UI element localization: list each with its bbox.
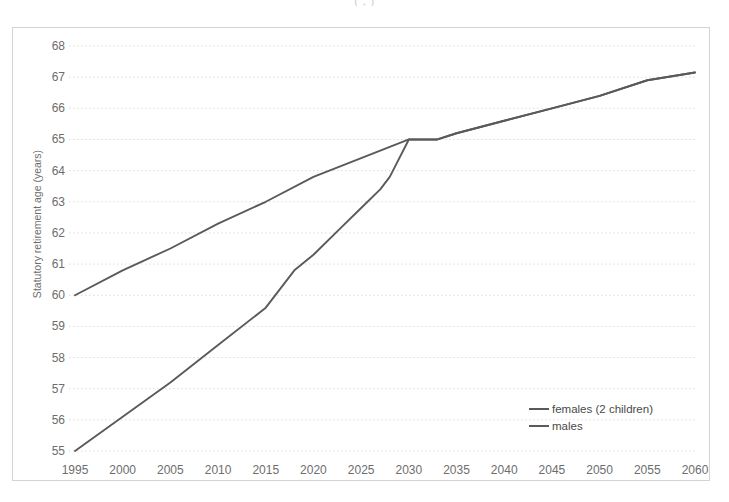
legend-line-icon — [529, 425, 549, 427]
x-tick-label: 2060 — [665, 464, 725, 476]
y-tick-label: 62 — [31, 227, 65, 239]
y-tick-label: 64 — [31, 165, 65, 177]
chart-plot-area: Statutory retirement age (years) 5556575… — [12, 27, 710, 481]
legend-item-females: females (2 children) — [529, 400, 653, 417]
y-tick-label: 60 — [31, 289, 65, 301]
y-tick-label: 68 — [31, 40, 65, 52]
y-tick-label: 58 — [31, 352, 65, 364]
chart-legend: females (2 children) males — [529, 400, 653, 434]
y-tick-label: 65 — [31, 133, 65, 145]
legend-item-label: females (2 children) — [552, 403, 653, 415]
y-tick-label: 67 — [31, 71, 65, 83]
y-tick-label: 55 — [31, 445, 65, 457]
y-tick-label: 63 — [31, 196, 65, 208]
y-tick-label: 61 — [31, 258, 65, 270]
y-tick-label: 57 — [31, 383, 65, 395]
y-tick-label: 66 — [31, 102, 65, 114]
legend-item-males: males — [529, 417, 653, 434]
legend-line-icon — [529, 408, 549, 410]
legend-item-label: males — [552, 420, 583, 432]
cropped-title-fragment: ( , ) — [0, 0, 729, 6]
y-tick-label: 59 — [31, 320, 65, 332]
y-tick-label: 56 — [31, 414, 65, 426]
chart-figure: ( , ) Statutory retirement age (years) 5… — [0, 0, 729, 502]
